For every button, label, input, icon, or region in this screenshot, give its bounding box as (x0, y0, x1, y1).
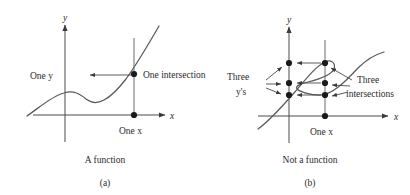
panel-b-panel-label: (b) (304, 178, 315, 189)
panel-b-three-intersections-label-line2: intersections (346, 89, 394, 99)
panel-b-three-ys-leader-upper (266, 67, 282, 80)
panel-a-one-y-label: One y (30, 71, 53, 81)
panel-b-one-x-label: One x (310, 127, 333, 137)
figure-container: x y One y One intersection One x A funct… (0, 0, 410, 195)
panel-b-y-value-dot-middle (286, 80, 292, 86)
panel-b-three-intersections-leader-upper (331, 68, 352, 80)
panel-b-three-ys-leader-lower (266, 88, 281, 94)
panel-b-intersection-dot-upper (322, 60, 328, 66)
panel-a-panel-label: (a) (100, 178, 111, 189)
panel-b-caption: Not a function (283, 155, 338, 165)
panel-b-intersection-dot-middle (322, 80, 328, 86)
panel-a: x y One y One intersection One x A funct… (27, 13, 206, 189)
panel-b-y-value-dot-upper (286, 60, 292, 66)
panel-b-y-value-dot-lower (286, 92, 292, 98)
panel-b-three-label: Three (227, 72, 249, 82)
panel-b-intersection-dot-lower (322, 92, 328, 98)
panel-a-intersection-dot (131, 71, 137, 77)
panel-a-y-axis-label: y (62, 13, 68, 23)
panel-a-x-axis-label: x (169, 111, 175, 121)
panel-a-x-value-dot (131, 112, 137, 118)
panel-a-one-x-label: One x (119, 126, 142, 136)
panel-b-y-axis-label: y (286, 15, 292, 25)
panel-a-one-intersection-label: One intersection (143, 70, 206, 80)
panel-a-caption: A function (85, 155, 126, 165)
panel-b-ys-label: y's (236, 87, 246, 97)
function-vertical-line-test-figure: x y One y One intersection One x A funct… (0, 0, 410, 195)
panel-b-x-axis-label: x (393, 112, 399, 122)
panel-b-three-intersections-leader-middle (332, 85, 350, 86)
panel-b: x y (227, 15, 399, 189)
panel-b-x-value-dot (322, 113, 328, 119)
panel-b-three-intersections-label-line1: Three (357, 75, 379, 85)
